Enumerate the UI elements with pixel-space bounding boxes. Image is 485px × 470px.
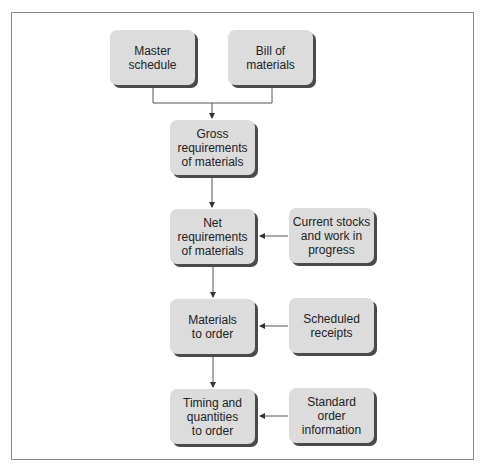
node-label: Master schedule — [128, 44, 176, 72]
merge-connector — [153, 86, 272, 103]
node-timing-quantities: Timing and quantities to order — [170, 389, 255, 444]
node-net-requirements: Net requirements of materials — [170, 209, 255, 264]
node-label: Timing and quantities to order — [183, 396, 242, 438]
node-materials-to-order: Materials to order — [170, 299, 255, 354]
node-label: Materials to order — [188, 313, 237, 341]
node-standard-order-info: Standard order information — [289, 388, 374, 443]
node-label: Net requirements of materials — [177, 216, 247, 258]
node-master-schedule: Master schedule — [110, 30, 195, 85]
node-gross-requirements: Gross requirements of materials — [170, 120, 255, 175]
node-label: Bill of materials — [246, 44, 295, 72]
node-label: Gross requirements of materials — [177, 127, 247, 169]
node-bill-of-materials: Bill of materials — [228, 30, 313, 85]
node-current-stocks: Current stocks and work in progress — [289, 208, 374, 263]
node-label: Scheduled receipts — [303, 312, 360, 340]
node-label: Standard order information — [292, 395, 371, 437]
node-label: Current stocks and work in progress — [293, 215, 370, 257]
node-scheduled-receipts: Scheduled receipts — [289, 298, 374, 353]
